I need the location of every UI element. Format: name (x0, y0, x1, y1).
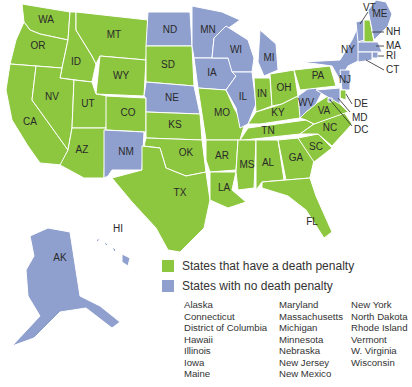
legend-list-item: Hawaii (184, 334, 279, 346)
state-label-in: IN (257, 88, 267, 99)
state-label-nv: NV (45, 91, 59, 102)
state-label-sd: SD (161, 59, 175, 70)
no-death-penalty-swatch (162, 280, 174, 292)
legend-list-column: New YorkNorth DakotaRhode IslandVermontW… (351, 299, 408, 380)
legend-list-item: New Jersey (279, 357, 351, 369)
state-label-az: AZ (76, 144, 89, 155)
legend-list-item: New York (351, 299, 408, 311)
state-label-pa: PA (312, 70, 325, 81)
state-label-md: MD (352, 112, 368, 123)
state-label-tn: TN (261, 125, 274, 136)
state-hi (122, 254, 130, 266)
state-label-mo: MO (214, 107, 230, 118)
legend-death-penalty-label: States that have a death penalty (182, 259, 354, 273)
callout-line-de (346, 94, 352, 104)
state-de (340, 90, 346, 100)
state-label-hi: HI (113, 223, 123, 234)
state-label-wv: WV (298, 97, 314, 108)
state-label-il: IL (239, 91, 248, 102)
state-label-ks: KS (168, 119, 182, 130)
state-label-nd: ND (163, 24, 177, 35)
state-label-al: AL (262, 157, 275, 168)
state-label-ar: AR (215, 150, 229, 161)
state-label-wy: WY (113, 70, 129, 81)
state-ak (12, 228, 120, 346)
legend-list-item: Connecticut (184, 311, 279, 323)
state-label-id: ID (71, 56, 81, 67)
state-label-ak: AK (53, 252, 67, 263)
state-label-mi: MI (263, 52, 274, 63)
legend-list-item: Alaska (184, 299, 279, 311)
state-label-mn: MN (200, 24, 216, 35)
state-label-la: LA (218, 182, 231, 193)
state-hi (96, 238, 100, 242)
state-label-ga: GA (289, 152, 304, 163)
state-label-wi: WI (230, 44, 242, 55)
state-label-de: DE (354, 98, 368, 109)
state-label-ia: IA (207, 67, 217, 78)
legend-list-column: MarylandMassachusettsMichiganMinnesotaNe… (279, 299, 351, 380)
legend-list-item: W. Virginia (351, 345, 408, 357)
legend-death-penalty: States that have a death penalty (162, 256, 412, 276)
state-label-ky: KY (271, 107, 285, 118)
legend-list-item: Maryland (279, 299, 351, 311)
state-ri (372, 52, 378, 58)
legend-list-item: Minnesota (279, 334, 351, 346)
state-label-ok: OK (179, 147, 194, 158)
legend-list-item: District of Columbia (184, 322, 279, 334)
state-label-sc: SC (309, 141, 323, 152)
state-label-ut: UT (81, 98, 94, 109)
state-ma (358, 42, 382, 52)
state-label-tx: TX (174, 187, 187, 198)
state-label-fl: FL (306, 216, 318, 227)
state-label-ms: MS (240, 159, 255, 170)
state-ct (358, 52, 372, 62)
state-label-me: ME (373, 8, 388, 19)
legend-no-death-penalty-label: States with no death penalty (182, 279, 333, 293)
legend-list-item: Wisconsin (351, 357, 408, 369)
state-label-nh: NH (386, 26, 400, 37)
state-label-ne: NE (165, 92, 179, 103)
state-label-mt: MT (107, 29, 121, 40)
legend-list-item: Maine (184, 368, 279, 380)
callout-line-ct (366, 60, 384, 70)
state-label-ca: CA (23, 116, 37, 127)
state-label-ct: CT (386, 64, 399, 75)
state-label-ny: NY (341, 44, 355, 55)
legend-list-item: Massachusetts (279, 311, 351, 323)
state-label-ri: RI (386, 50, 396, 61)
state-label-or: OR (31, 40, 46, 51)
legend: States that have a death penalty States … (162, 256, 412, 380)
state-hi (112, 246, 116, 252)
state-fl (262, 178, 332, 238)
legend-list-item: Michigan (279, 322, 351, 334)
legend-no-death-penalty: States with no death penalty (162, 276, 412, 296)
state-label-oh: OH (277, 82, 292, 93)
state-label-nm: NM (118, 146, 134, 157)
death-penalty-swatch (162, 260, 174, 272)
state-label-co: CO (121, 107, 136, 118)
legend-list-column: AlaskaConnecticutDistrict of ColumbiaHaw… (184, 299, 279, 380)
legend-list-item: Rhode Island (351, 322, 408, 334)
legend-list-item: Nebraska (279, 345, 351, 357)
state-label-dc: DC (354, 124, 368, 135)
no-death-penalty-list: AlaskaConnecticutDistrict of ColumbiaHaw… (184, 299, 412, 380)
legend-list-item: New Mexico (279, 368, 351, 380)
legend-list-item: Illinois (184, 345, 279, 357)
state-hi (104, 242, 108, 246)
state-label-nj: NJ (339, 74, 351, 85)
state-label-va: VA (318, 105, 331, 116)
legend-list-item: Vermont (351, 334, 408, 346)
state-label-nc: NC (323, 122, 337, 133)
legend-list-item: Iowa (184, 357, 279, 369)
legend-list-item: North Dakota (351, 311, 408, 323)
state-label-wa: WA (38, 14, 54, 25)
